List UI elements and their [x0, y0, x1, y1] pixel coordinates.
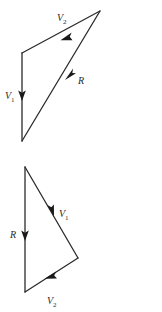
- top-v2-arrowhead: [61, 33, 73, 41]
- bottom-v1-line: [25, 167, 78, 258]
- bottom-v2-arrowhead: [45, 272, 58, 279]
- top-v2-label-sub: 2: [63, 18, 67, 26]
- bottom-v1-label: V1: [59, 208, 69, 222]
- top-v1-label-sub: 1: [11, 96, 15, 104]
- bottom-v1-arrowhead: [47, 205, 54, 217]
- bottom-panel: R V1 V2: [9, 167, 78, 309]
- bottom-v2-label-sub: 2: [53, 301, 57, 309]
- bottom-v1-label-sub: 1: [65, 214, 69, 222]
- top-v2-label: V2: [57, 12, 67, 26]
- vector-diagram-figure: V1 V2 R R V1 V2: [0, 0, 162, 312]
- bottom-r-label: R: [9, 229, 16, 240]
- top-v1-label: V1: [5, 90, 15, 104]
- top-r-arrowhead: [65, 68, 76, 80]
- top-panel: V1 V2 R: [5, 11, 100, 141]
- top-r-line: [22, 11, 100, 141]
- bottom-v2-label: V2: [47, 295, 57, 309]
- vector-diagram-svg: V1 V2 R R V1 V2: [0, 0, 162, 312]
- top-r-label: R: [77, 75, 84, 86]
